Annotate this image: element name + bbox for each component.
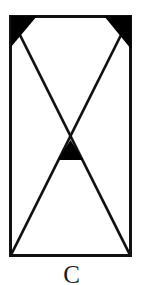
geometric-figure-diagram [0,0,143,285]
figure-caption-label: C [0,262,143,285]
figure-container: C [0,0,143,285]
